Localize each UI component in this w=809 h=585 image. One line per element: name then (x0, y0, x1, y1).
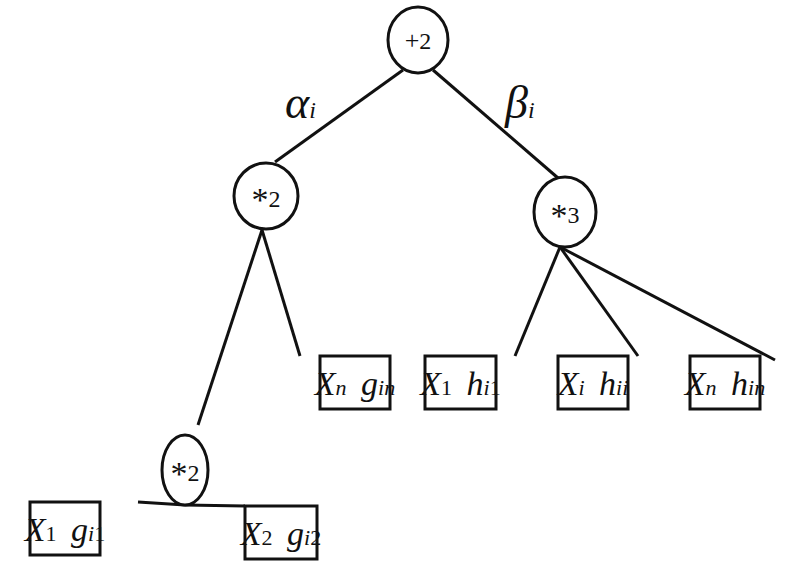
operator-node-root: +2 (388, 7, 448, 73)
leaf-leaf_xi_hii: Xi hii (556, 356, 629, 409)
operator-label: +2 (405, 26, 432, 55)
leaf-leaf_xn_hin: Xn hin (683, 356, 765, 409)
edge-root-to-mul_right (433, 70, 558, 178)
operator-nodes: +2*2*3*2 (162, 7, 596, 505)
beta-weight-label: βi (504, 77, 535, 128)
edge-mul_right-to-leaf_xn_hin (560, 247, 775, 360)
edge-mul_left-to-leaf_xn_gin (262, 230, 300, 356)
leaf-leaf_x2_gi2: X2 gi2 (239, 506, 321, 559)
leaf-leaf_x1_hi1: X1 hi1 (418, 356, 500, 409)
edge-mul_right-to-leaf_xi_hii (560, 247, 638, 356)
edge-weight-labels: αiβi (285, 77, 535, 128)
leaf-leaf_x1_gi1: X1 gi1 (23, 502, 105, 555)
leaf-nodes: X1 gi1X2 gi2Xn ginX1 hi1Xi hiiXn hin (23, 356, 765, 559)
edge-mul_inner-to-leaf_x2_gi2 (185, 505, 245, 506)
edge-mul_left-to-mul_inner (198, 230, 262, 425)
alpha-weight-label: αi (285, 77, 316, 128)
operator-node-mul_inner: *2 (162, 435, 208, 505)
tree-edges (138, 70, 775, 506)
operator-node-mul_left: *2 (234, 163, 298, 229)
edge-mul_right-to-leaf_x1_hi1 (515, 247, 560, 356)
expression-tree: αiβi +2*2*3*2 X1 gi1X2 gi2Xn ginX1 hi1Xi… (0, 0, 809, 585)
operator-node-mul_right: *3 (534, 177, 596, 247)
leaf-leaf_xn_gin: Xn gin (313, 356, 395, 409)
